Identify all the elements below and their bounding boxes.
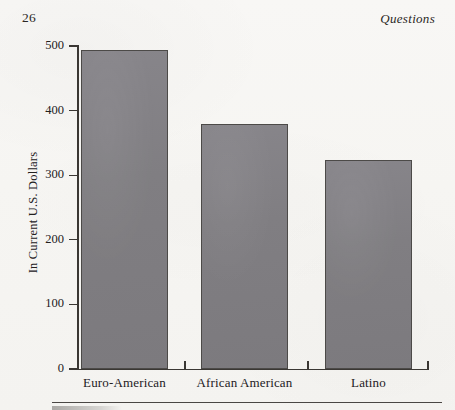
- y-axis-tick: [69, 45, 78, 46]
- bar: [325, 160, 412, 369]
- y-axis-tick-label: 200: [24, 233, 64, 246]
- y-axis-tick: [69, 110, 78, 111]
- y-axis-tick-label: 100: [24, 297, 64, 310]
- bar-chart: In Current U.S. Dollars 0100200300400500…: [0, 0, 455, 410]
- y-axis-tick-label: 300: [24, 168, 64, 181]
- y-axis-tick-label: 500: [24, 39, 64, 52]
- caption-divider: [52, 402, 442, 403]
- y-axis-tick-label: 400: [24, 104, 64, 117]
- x-axis-tick: [184, 361, 186, 370]
- caption-text-clipped: [52, 406, 122, 410]
- x-axis-tick: [307, 361, 309, 370]
- x-axis-category-label: Latino: [289, 375, 449, 391]
- y-axis-line: [77, 45, 79, 370]
- bar: [81, 50, 168, 369]
- y-axis-title: In Current U.S. Dollars: [26, 118, 41, 308]
- y-axis-tick-label: 0: [24, 362, 64, 375]
- bar: [201, 124, 288, 369]
- x-axis-tick: [427, 361, 429, 370]
- x-axis-tick: [77, 361, 79, 370]
- y-axis-tick: [69, 304, 78, 305]
- y-axis-tick: [69, 239, 78, 240]
- y-axis-tick: [69, 175, 78, 176]
